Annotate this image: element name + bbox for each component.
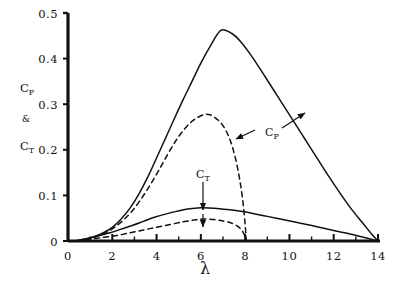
x-tick-label-4: 8 bbox=[241, 249, 249, 263]
y-tick-label-3: 0.3 bbox=[38, 98, 58, 112]
y-axis-title: CP & CT bbox=[20, 81, 35, 155]
series-path-1 bbox=[77, 114, 246, 241]
y-tick-label-0: 0 bbox=[50, 235, 58, 249]
y-tick-label-2: 0.2 bbox=[38, 143, 58, 157]
x-tick-label-7: 14 bbox=[370, 249, 386, 263]
axes-group bbox=[63, 13, 380, 241]
x-tick-label-2: 4 bbox=[153, 249, 161, 263]
series-path-2 bbox=[75, 208, 378, 241]
y-axis-title-amp: & bbox=[22, 114, 30, 124]
y-tick-label-4: 0.4 bbox=[38, 52, 58, 66]
x-tick-label-1: 2 bbox=[108, 249, 116, 263]
annotations-group: CPCT bbox=[196, 113, 305, 227]
chart-svg: 00.10.20.30.40.502468101214 CPCT CP & CT… bbox=[0, 0, 400, 284]
ct-annotation: CT bbox=[196, 168, 210, 227]
x-tick-label-0: 0 bbox=[64, 249, 72, 263]
y-tick-label-1: 0.1 bbox=[38, 189, 58, 203]
y-axis-title-ct: CT bbox=[20, 139, 35, 155]
cp-annotation-arrow-1 bbox=[282, 113, 305, 128]
y-axis-title-cp: CP bbox=[20, 81, 35, 97]
cp-annotation-arrow-0 bbox=[236, 130, 255, 139]
x-axis-title: λ bbox=[200, 259, 210, 278]
x-tick-label-5: 10 bbox=[282, 249, 298, 263]
y-tick-label-5: 0.5 bbox=[38, 7, 58, 21]
ct-annotation-label: CT bbox=[196, 168, 210, 183]
cp-annotation-label: CP bbox=[265, 126, 279, 141]
cp-annotation: CP bbox=[236, 113, 305, 141]
data-series-group bbox=[75, 30, 378, 241]
series-path-3 bbox=[77, 219, 246, 241]
tick-labels-group: 00.10.20.30.40.502468101214 bbox=[38, 7, 386, 264]
x-tick-label-6: 12 bbox=[326, 249, 342, 263]
chart-figure: 00.10.20.30.40.502468101214 CPCT CP & CT… bbox=[0, 0, 400, 284]
